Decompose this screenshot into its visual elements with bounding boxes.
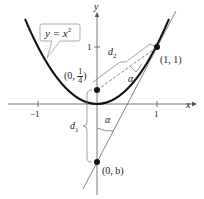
d2-subscript: 2	[113, 52, 117, 60]
tangent-point	[154, 44, 160, 50]
d2-brace	[93, 44, 154, 82]
d1-subscript: 1	[75, 126, 79, 134]
angle-arc-bottom	[97, 128, 114, 131]
y-intercept-point	[94, 159, 100, 165]
x-tick-label-neg1: −1	[30, 110, 40, 119]
curve-label: y = x2	[45, 27, 71, 39]
x-tick-label-1: 1	[154, 110, 159, 119]
y-axis-label: y	[94, 2, 98, 12]
curve-label-exponent: 2	[68, 26, 72, 34]
y-tick-label-1: 1	[87, 43, 92, 52]
focus-label-suffix: )	[83, 70, 86, 81]
y-intercept-label: (0, b)	[102, 166, 124, 176]
angle-label-bottom: α	[105, 115, 110, 125]
parabola-reflection-diagram: x y −1 1 1 y = x2 (0, 14) (1, 1) (0, b) …	[0, 0, 204, 199]
curve-label-text: y = x	[45, 27, 68, 39]
tangent-point-label: (1, 1)	[160, 55, 182, 65]
focus-point	[94, 87, 100, 93]
angle-label-top: α	[128, 74, 133, 84]
d1-label: d1	[70, 121, 79, 134]
d2-label: d2	[108, 47, 117, 60]
focal-line	[97, 47, 157, 90]
focus-label: (0, 14)	[64, 68, 87, 85]
x-axis-label: x	[186, 100, 190, 110]
fraction-denominator: 4	[78, 77, 82, 85]
focus-label-prefix: (0,	[64, 70, 77, 81]
